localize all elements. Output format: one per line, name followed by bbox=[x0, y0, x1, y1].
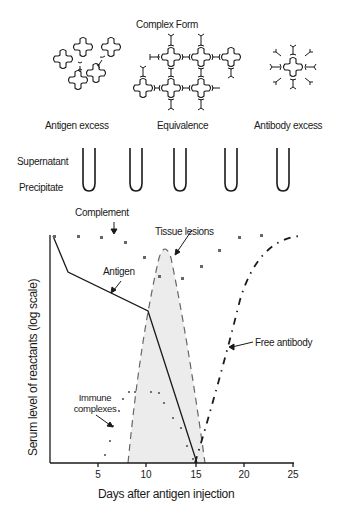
antigen-arrow bbox=[114, 281, 121, 290]
free-antibody-curve bbox=[195, 236, 300, 463]
tube-3 bbox=[174, 148, 186, 191]
y-axis-label: Serum level of reactants (log scale) bbox=[26, 279, 40, 456]
free-antibody-annotation: Free antibody bbox=[255, 337, 312, 348]
tube-2 bbox=[130, 148, 142, 191]
tissue-lesions-annotation: Tissue lesions bbox=[155, 226, 214, 237]
antigen-excess-label: Antigen excess bbox=[45, 120, 109, 131]
antibody-excess-cluster bbox=[270, 45, 316, 89]
antigen-icon bbox=[69, 71, 88, 90]
antigen-icon bbox=[192, 48, 211, 67]
antigen-excess-cluster bbox=[54, 38, 121, 90]
antigen-icon bbox=[192, 79, 211, 98]
diagram-canvas bbox=[0, 0, 337, 511]
x-axis-label: Days after antigen injection bbox=[98, 487, 234, 501]
equivalence-label: Equivalence bbox=[157, 120, 208, 131]
arrow-head-icon bbox=[229, 344, 234, 350]
arrow-head-icon bbox=[111, 229, 117, 234]
free-antibody-arrow bbox=[232, 342, 253, 347]
x-tick-label: 20 bbox=[238, 469, 249, 480]
tube-4 bbox=[225, 148, 237, 191]
antigen-icon bbox=[284, 58, 303, 77]
antigen-icon bbox=[87, 64, 106, 83]
tissue-lesions-area bbox=[128, 249, 205, 463]
antigen-icon bbox=[162, 79, 181, 98]
test-tubes bbox=[83, 148, 289, 191]
immune-complexes-arrow bbox=[96, 415, 110, 425]
equivalence-lattice bbox=[134, 34, 241, 110]
antigen-annotation: Antigen bbox=[103, 266, 135, 277]
antigen-icon bbox=[102, 38, 121, 57]
antigen-icon bbox=[54, 50, 73, 69]
precipitate-label: Precipitate bbox=[19, 182, 63, 193]
tube-5 bbox=[277, 148, 289, 191]
x-tick-label: 5 bbox=[95, 469, 101, 480]
x-tick-label: 10 bbox=[140, 469, 151, 480]
immune-complexes-annotation: Immune complexes bbox=[70, 392, 120, 414]
x-tick-label: 15 bbox=[190, 469, 201, 480]
arrow-head-icon bbox=[107, 422, 113, 427]
x-tick-label: 25 bbox=[287, 469, 298, 480]
complement-annotation: Complement bbox=[75, 207, 129, 218]
antigen-icon bbox=[162, 48, 181, 67]
antigen-icon bbox=[74, 38, 93, 57]
antibody-icon bbox=[97, 56, 105, 68]
antigen-icon bbox=[222, 48, 241, 67]
antibody-excess-label: Antibody excess bbox=[254, 120, 322, 131]
antigen-icon bbox=[134, 79, 153, 98]
tube-1 bbox=[83, 148, 95, 191]
supernatant-label: Supernatant bbox=[17, 156, 68, 167]
arrow-head-icon bbox=[175, 249, 180, 255]
